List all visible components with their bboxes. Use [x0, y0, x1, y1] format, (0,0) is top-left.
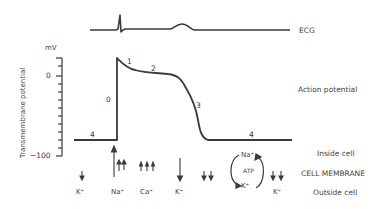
phase-2-label: 2 — [151, 65, 156, 73]
action-potential-label: Action potential — [298, 86, 357, 94]
ion-k-label-1: K⁺ — [76, 189, 84, 196]
phase-3-label: 3 — [196, 102, 201, 110]
outside-cell-label: Outside cell — [313, 189, 357, 197]
y-tick-minus-100: −100 — [30, 152, 51, 160]
pump-k-label: K⁺ — [241, 183, 249, 190]
ion-k-label-3: K⁺ — [273, 189, 281, 196]
ion-na-label: Na⁺ — [111, 189, 124, 196]
y-axis — [56, 58, 62, 156]
y-axis-title: Transmembrane potential — [19, 68, 27, 158]
phase-4-right-label: 4 — [249, 131, 254, 139]
ecg-label: ECG — [299, 27, 315, 35]
ecg-trace — [90, 15, 290, 32]
y-tick-0: 0 — [46, 72, 51, 80]
phase-0-label: 0 — [106, 96, 111, 104]
cell-membrane-label: CELL MEMBRANE — [301, 170, 365, 178]
phase-1-label: 1 — [127, 58, 132, 66]
inside-cell-label: Inside cell — [317, 150, 355, 158]
pump-atp-label: ATP — [243, 168, 254, 174]
y-axis-unit: mV — [45, 45, 57, 52]
phase-4-left-label: 4 — [90, 131, 95, 139]
pump-na-label: Na⁺ — [241, 152, 254, 159]
ion-ca-label: Ca⁺ — [140, 189, 153, 196]
ion-k-label-2: K⁺ — [175, 189, 183, 196]
